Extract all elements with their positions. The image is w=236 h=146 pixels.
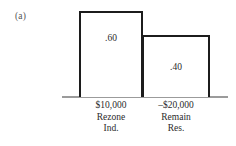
category-outcome-line2-rezone-ind: Ind. [75, 123, 147, 135]
category-outcome-line1-rezone-ind: Rezone [75, 112, 147, 124]
bar-value-label-remain-res: .40 [142, 62, 210, 73]
category-payoff-remain-res: –$20,000 [140, 100, 212, 112]
bar-value-label-rezone-ind: .60 [79, 33, 143, 44]
category-outcome-line1-remain-res: Remain [140, 112, 212, 124]
probability-bar-chart-figure: (a) .60 .40 $10,000 Rezone Ind. –$20,000… [0, 0, 236, 146]
category-label-rezone-ind: $10,000 Rezone Ind. [75, 100, 147, 135]
bar-rezone-ind [79, 11, 143, 97]
panel-label: (a) [15, 10, 26, 22]
category-outcome-line2-remain-res: Res. [140, 123, 212, 135]
category-label-remain-res: –$20,000 Remain Res. [140, 100, 212, 135]
category-payoff-rezone-ind: $10,000 [75, 100, 147, 112]
